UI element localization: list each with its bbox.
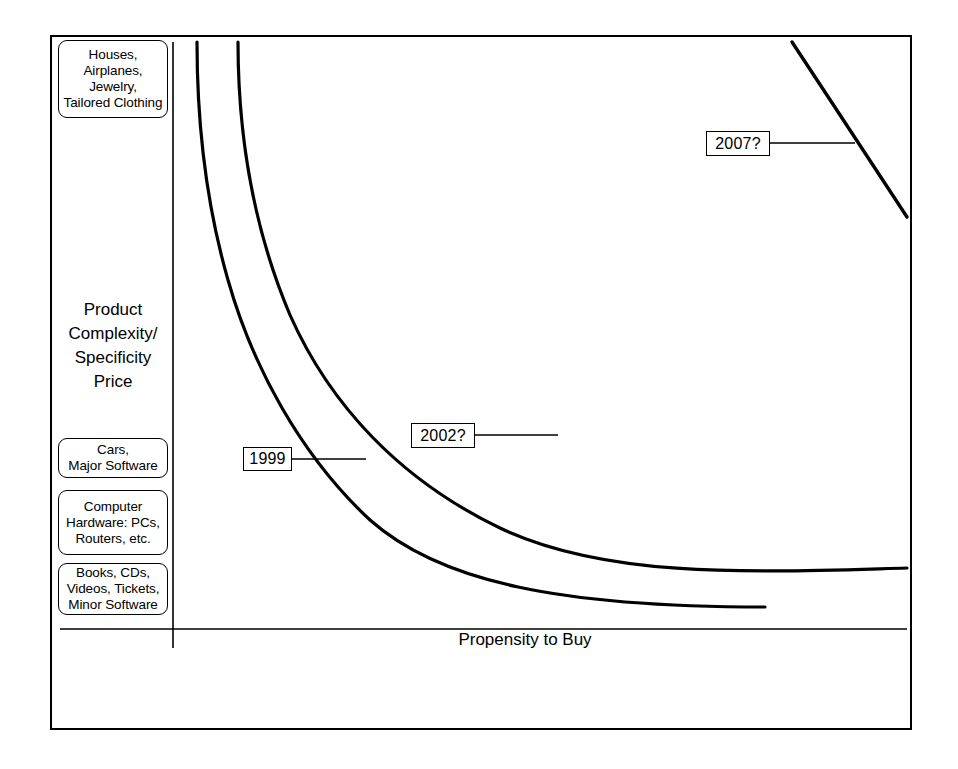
callout-2007-label: 2007? [715, 135, 761, 153]
curve-1999 [197, 42, 765, 607]
callout-2002: 2002? [411, 423, 475, 448]
callout-1999: 1999 [243, 447, 292, 471]
category-box-cars-label: Cars, Major Software [65, 442, 160, 474]
callout-2007: 2007? [706, 131, 770, 156]
x-axis-label: Propensity to Buy [380, 630, 670, 650]
callout-1999-label: 1999 [249, 450, 285, 468]
curve-2007 [792, 42, 907, 217]
category-box-books-label: Books, CDs, Videos, Tickets, Minor Softw… [64, 565, 163, 613]
category-box-books: Books, CDs, Videos, Tickets, Minor Softw… [58, 563, 168, 615]
curve-2002 [238, 42, 907, 571]
category-box-computer-hardware: Computer Hardware: PCs, Routers, etc. [58, 490, 168, 555]
callout-2002-label: 2002? [420, 427, 466, 445]
category-box-computer-hardware-label: Computer Hardware: PCs, Routers, etc. [63, 499, 163, 547]
category-box-houses-label: Houses, Airplanes, Jewelry, Tailored Clo… [61, 47, 166, 111]
category-box-cars: Cars, Major Software [58, 438, 168, 478]
figure-container: Houses, Airplanes, Jewelry, Tailored Clo… [0, 0, 958, 769]
category-box-houses: Houses, Airplanes, Jewelry, Tailored Clo… [58, 40, 168, 118]
y-axis-label: Product Complexity/ Specificity Price [52, 298, 174, 394]
